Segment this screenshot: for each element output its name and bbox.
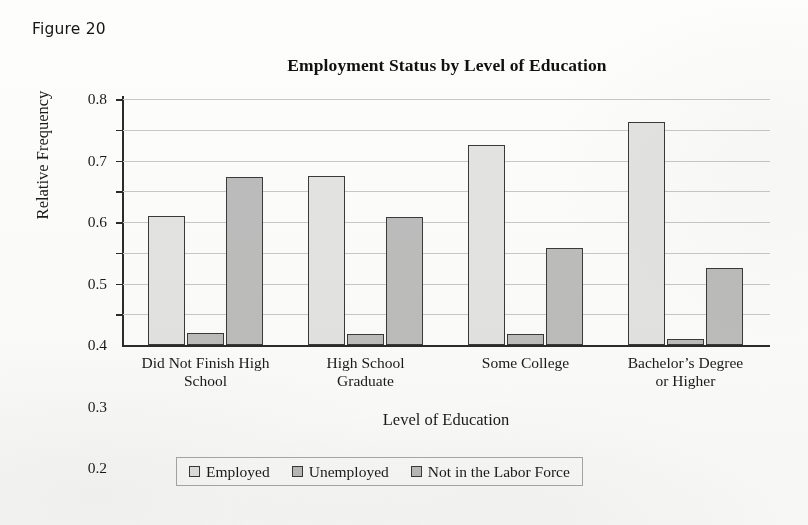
y-axis-tick-label: 0.2 xyxy=(88,459,107,477)
bar xyxy=(706,268,743,345)
legend-swatch-icon xyxy=(189,466,200,477)
bar xyxy=(308,176,345,345)
bar xyxy=(468,145,505,345)
figure-label: Figure 20 xyxy=(32,20,106,38)
bar xyxy=(507,334,544,345)
legend-label: Not in the Labor Force xyxy=(428,463,570,481)
legend-swatch-icon xyxy=(292,466,303,477)
y-axis-tick-label: 0.1 xyxy=(88,521,107,525)
legend-item: Not in the Labor Force xyxy=(411,463,570,481)
bar xyxy=(347,334,384,345)
category-label-line: or Higher xyxy=(591,372,781,390)
legend-item: Employed xyxy=(189,463,270,481)
x-axis-category-label: Bachelor’s Degreeor Higher xyxy=(591,354,781,389)
legend-swatch-icon xyxy=(411,466,422,477)
y-axis-tick-label: 0.5 xyxy=(88,275,107,293)
bar xyxy=(546,248,583,345)
bar xyxy=(187,333,224,345)
plot-area: 0.80.70.60.50.40.30.20.10 xyxy=(122,99,770,345)
bar xyxy=(226,177,263,345)
y-axis-tick-label: 0.8 xyxy=(88,90,107,108)
bar-series-layer xyxy=(122,99,770,345)
category-label-line: Bachelor’s Degree xyxy=(591,354,781,372)
x-axis-line xyxy=(122,345,770,347)
legend-label: Unemployed xyxy=(309,463,389,481)
bar xyxy=(667,339,704,345)
bar xyxy=(628,122,665,345)
y-axis-tick-label: 0.3 xyxy=(88,398,107,416)
y-axis-tick-label: 0.7 xyxy=(88,152,107,170)
x-axis-title: Level of Education xyxy=(122,410,770,430)
chart-legend: EmployedUnemployedNot in the Labor Force xyxy=(176,457,583,486)
y-axis-tick-label: 0.6 xyxy=(88,213,107,231)
legend-label: Employed xyxy=(206,463,270,481)
y-axis-title: Relative Frequency xyxy=(33,50,53,260)
chart-title: Employment Status by Level of Education xyxy=(122,55,772,76)
bar xyxy=(148,216,185,345)
y-axis-tick-label: 0.4 xyxy=(88,336,107,354)
bar xyxy=(386,217,423,345)
legend-item: Unemployed xyxy=(292,463,389,481)
category-label-line: Graduate xyxy=(271,372,461,390)
